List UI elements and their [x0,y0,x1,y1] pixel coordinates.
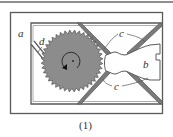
label-c-bottom: c [114,80,119,92]
label-a: a [18,27,24,39]
label-c-top: c [119,27,124,39]
figure-caption: (1) [79,119,92,132]
label-d: d [39,35,45,47]
label-b: b [143,58,149,70]
gear-center [72,60,74,62]
mechanism-diagram: a d c b c (1) [0,0,173,137]
